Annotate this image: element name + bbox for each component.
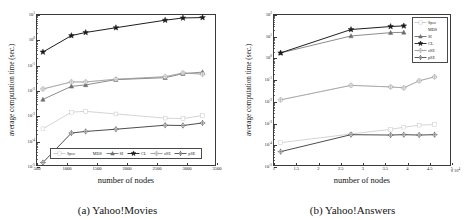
y-tick-label: 100 <box>29 37 35 43</box>
x-tick-label: 3 <box>362 167 364 172</box>
series-marker-spec <box>181 117 185 121</box>
y-tick-label: 101 <box>29 12 35 18</box>
y-tickmark-minor <box>37 143 38 144</box>
y-tickmark-minor <box>37 130 38 131</box>
legend-swatch-mds-icon <box>414 26 427 33</box>
x-tickmark <box>430 163 431 166</box>
x-tick-label: 4 <box>406 167 408 172</box>
x-tickmark <box>157 163 158 166</box>
y-tickmark-minor <box>37 58 38 59</box>
legend-item-pse-a[interactable]: pSE <box>174 150 199 157</box>
legend-swatch-pse-icon <box>414 54 427 61</box>
y-tickmark-minor <box>274 62 275 63</box>
series-marker-spec <box>402 125 406 129</box>
y-tickmark-minor <box>274 113 275 114</box>
y-tickmark-minor <box>37 119 38 120</box>
x-axis-multiplier: x 104 <box>451 167 460 173</box>
series-marker-cl <box>83 30 89 35</box>
x-tickmark <box>408 163 409 166</box>
y-tickmark-minor <box>37 23 38 24</box>
y-tickmark-minor <box>274 104 275 105</box>
legend-item-zse-b[interactable]: zSE <box>414 47 446 54</box>
series-marker-cl <box>348 27 354 32</box>
y-axis-label-a: average computation time (sec.) <box>8 44 16 136</box>
y-tick-label: 10-3 <box>28 113 35 119</box>
y-tickmark-minor <box>274 17 275 18</box>
y-tickmark-minor <box>274 70 275 71</box>
y-tickmark-minor <box>274 147 275 148</box>
y-tickmark-minor <box>37 33 38 34</box>
legend-item-si-b[interactable]: SI <box>414 33 446 40</box>
x-axis-label-b: number of nodes <box>273 176 451 185</box>
legend-b[interactable]: Spec MDS SI CL zSE <box>412 17 448 63</box>
legend-item-cl-b[interactable]: CL <box>414 40 446 47</box>
legend-label-pse: pSE <box>428 55 435 60</box>
y-tickmark-minor <box>37 134 38 135</box>
series-line-zse <box>43 73 203 89</box>
series-marker-spec <box>70 110 74 114</box>
y-tickmark-minor <box>274 125 275 126</box>
y-tickmark-minor <box>274 160 275 161</box>
legend-item-cl-a[interactable]: CL <box>127 150 150 157</box>
y-tickmark-minor <box>274 126 275 127</box>
series-marker-zse <box>69 79 75 85</box>
series-marker-cl <box>388 24 394 29</box>
y-tick-label: 10-4 <box>265 142 272 148</box>
series-marker-cl <box>113 25 119 30</box>
legend-item-pse-b[interactable]: pSE <box>414 54 446 61</box>
y-tickmark-minor <box>37 99 38 100</box>
legend-label-spec: Spec <box>67 151 75 156</box>
series-marker-spec <box>279 141 283 145</box>
y-tickmark-minor <box>274 95 275 96</box>
panel-yahoo-movies: average computation time (sec.) Spec MDS… <box>0 0 235 220</box>
y-tickmark-minor <box>37 43 38 44</box>
y-tickmark-minor <box>274 135 275 136</box>
y-tickmark-minor <box>274 108 275 109</box>
x-tick-label: 500 <box>34 167 41 172</box>
legend-item-spec-a[interactable]: Spec <box>53 150 79 157</box>
y-tickmark-minor <box>37 83 38 84</box>
legend-swatch-si-icon <box>414 33 427 40</box>
y-tickmark-minor <box>37 149 38 150</box>
legend-item-mds-b[interactable]: MDS <box>414 26 446 33</box>
x-tickmark <box>97 163 98 166</box>
x-tickmark <box>274 163 275 166</box>
y-tick-label: 101 <box>266 34 272 40</box>
series-marker-pse <box>180 123 186 129</box>
figure-container: average computation time (sec.) Spec MDS… <box>0 0 470 220</box>
x-tick-label: 3000 <box>182 167 191 172</box>
x-tick-label: 1000 <box>62 167 71 172</box>
x-tickmark <box>296 163 297 166</box>
y-tickmark-minor <box>274 24 275 25</box>
y-tickmark-minor <box>37 19 38 20</box>
legend-item-si-a[interactable]: SI <box>106 150 127 157</box>
y-tickmark-minor <box>37 44 38 45</box>
x-tickmark <box>385 163 386 166</box>
y-tickmark-minor <box>37 17 38 18</box>
legend-item-spec-b[interactable]: Spec <box>414 19 446 26</box>
series-line-mds <box>281 77 435 100</box>
legend-a[interactable]: Spec MDS SI CL zSE <box>50 148 202 159</box>
y-tickmark-minor <box>37 124 38 125</box>
series-marker-pse <box>200 120 206 126</box>
y-tickmark-minor <box>274 152 275 153</box>
series-line-mds <box>43 73 203 89</box>
x-tick-label: 1 <box>273 167 275 172</box>
y-tickmark-minor <box>37 93 38 94</box>
y-tickmark-minor <box>274 139 275 140</box>
legend-item-mds-a[interactable]: MDS <box>79 150 106 157</box>
series-marker-zse <box>432 74 438 80</box>
y-tickmark-minor <box>37 144 38 145</box>
y-tickmark-minor <box>37 101 38 102</box>
series-marker-pse <box>401 132 407 138</box>
legend-swatch-pse-icon <box>174 150 187 157</box>
y-tickmark-minor <box>274 48 275 49</box>
y-tickmark-minor <box>274 45 275 46</box>
x-axis-label-a: number of nodes <box>36 176 216 185</box>
y-tickmark-minor <box>274 40 275 41</box>
y-tickmark-minor <box>37 46 38 47</box>
series-marker-pse <box>278 149 284 155</box>
y-tickmark-minor <box>274 157 275 158</box>
y-tick-label: 10-3 <box>265 121 272 127</box>
legend-item-zse-a[interactable]: zSE <box>150 150 174 157</box>
